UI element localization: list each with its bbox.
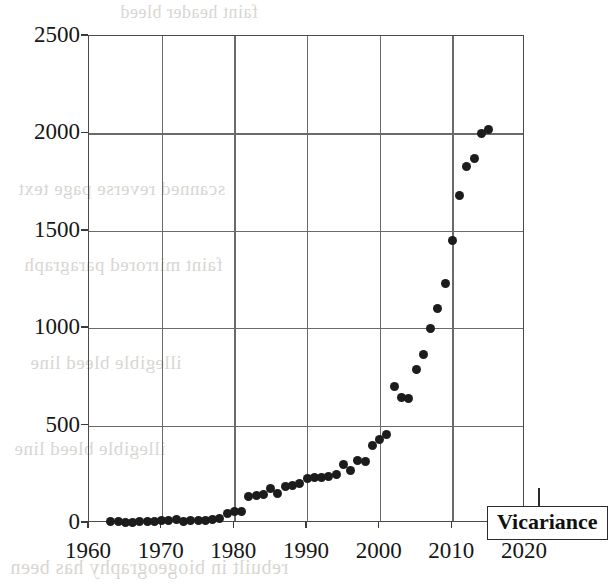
gridline-x-1990 [307,36,308,521]
data-point [273,489,282,498]
data-point [237,507,246,516]
x-tick-label-1980: 1980 [210,539,256,562]
data-point [412,365,421,374]
x-tick-mark-2010 [451,522,453,528]
x-tick-label-1970: 1970 [138,539,184,562]
gridline-x-1970 [162,36,163,521]
gridline-y-1500 [89,231,523,232]
data-point [382,430,391,439]
x-tick-mark-1980 [233,522,235,528]
plot-area: Vicariance [88,35,524,522]
gridline-y-2000 [89,133,523,134]
data-point [426,324,435,333]
x-tick-label-1990: 1990 [283,539,329,562]
data-point [455,191,464,200]
data-point [361,457,370,466]
x-tick-label-2010: 2010 [428,539,474,562]
x-tick-mark-1990 [305,522,307,528]
data-point [404,394,413,403]
legend-box: Vicariance [487,506,608,540]
data-point [390,382,399,391]
legend-leader-line [538,488,540,507]
gridline-x-1980 [234,36,235,521]
data-point [419,350,428,359]
gridline-x-2000 [380,36,381,521]
x-tick-label-2000: 2000 [356,539,402,562]
gridline-y-500 [89,426,523,427]
data-point [462,162,471,171]
x-tick-mark-2000 [378,522,380,528]
gridline-x-2010 [452,36,453,521]
x-tick-label-2020: 2020 [501,539,547,562]
data-point [433,304,442,313]
data-point [332,470,341,479]
x-tick-label-1960: 1960 [65,539,111,562]
data-point [448,236,457,245]
data-point [346,466,355,475]
gridline-y-1000 [89,328,523,329]
data-point [441,279,450,288]
x-tick-mark-1960 [87,522,89,528]
data-point [470,154,479,163]
